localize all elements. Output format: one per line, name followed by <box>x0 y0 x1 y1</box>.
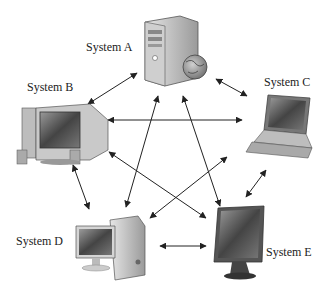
desktop-lcd-icon <box>76 216 145 280</box>
label-system-d: System D <box>16 234 63 249</box>
laptop-icon <box>246 95 312 158</box>
edge-b-d <box>73 165 89 209</box>
edge-a-e <box>183 96 220 206</box>
desktop-crt-icon <box>17 104 108 165</box>
lcd-monitor-icon <box>214 206 264 280</box>
label-system-b: System B <box>27 80 73 95</box>
label-system-a: System A <box>86 40 132 55</box>
globe-icon <box>183 55 207 79</box>
label-system-c: System C <box>264 75 310 90</box>
edge-a-b <box>88 73 137 104</box>
edge-a-d <box>126 96 158 207</box>
label-system-e: System E <box>266 245 312 260</box>
edge-a-c <box>216 79 247 96</box>
server-tower-icon <box>145 16 207 86</box>
edge-c-e <box>246 170 266 197</box>
